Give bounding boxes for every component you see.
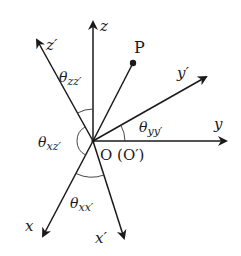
label-z: z bbox=[99, 17, 108, 35]
point-p-dot bbox=[130, 60, 136, 66]
label-theta-xz: θxz′ bbox=[38, 134, 61, 153]
coordinate-frames-diagram: z z′ y y′ x x′ P O (O′) θzz′ θyy′ θxz′ θ… bbox=[0, 0, 241, 256]
z-prime-axis bbox=[37, 40, 93, 141]
label-x: x bbox=[25, 217, 34, 235]
svg-text:θxx′: θxx′ bbox=[70, 195, 94, 214]
x-axis bbox=[43, 141, 93, 236]
label-z-prime: z′ bbox=[45, 36, 58, 54]
label-x-prime: x′ bbox=[95, 229, 107, 247]
label-y: y bbox=[213, 115, 223, 133]
arc-theta-xx bbox=[76, 174, 104, 178]
label-theta-yy: θyy′ bbox=[139, 119, 163, 138]
svg-text:θyy′: θyy′ bbox=[139, 119, 163, 138]
origin-dot bbox=[91, 139, 94, 142]
label-point-p: P bbox=[134, 38, 145, 57]
arc-theta-xz bbox=[77, 127, 86, 155]
label-theta-xx: θxx′ bbox=[70, 195, 94, 214]
svg-text:θxz′: θxz′ bbox=[38, 134, 61, 153]
label-y-prime: y′ bbox=[176, 64, 189, 82]
label-origin: O (O′) bbox=[100, 146, 144, 164]
arc-theta-zz bbox=[78, 109, 94, 113]
arc-theta-yy bbox=[121, 125, 125, 141]
